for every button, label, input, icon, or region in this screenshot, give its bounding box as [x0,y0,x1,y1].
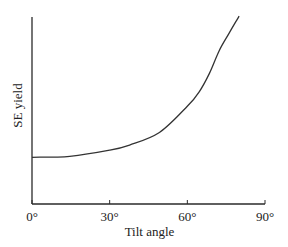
x-tick-label: 90° [256,209,274,224]
chart: 0°30°60°90° Tilt angle SE yield [0,0,288,247]
series-line-se-yield [32,16,239,157]
x-tick-label: 0° [26,209,38,224]
y-axis-label: SE yield [10,83,25,128]
x-axis-label: Tilt angle [125,224,175,239]
x-tick-labels: 0°30°60°90° [26,209,274,224]
x-tick-label: 60° [178,209,196,224]
x-tick-label: 30° [101,209,119,224]
